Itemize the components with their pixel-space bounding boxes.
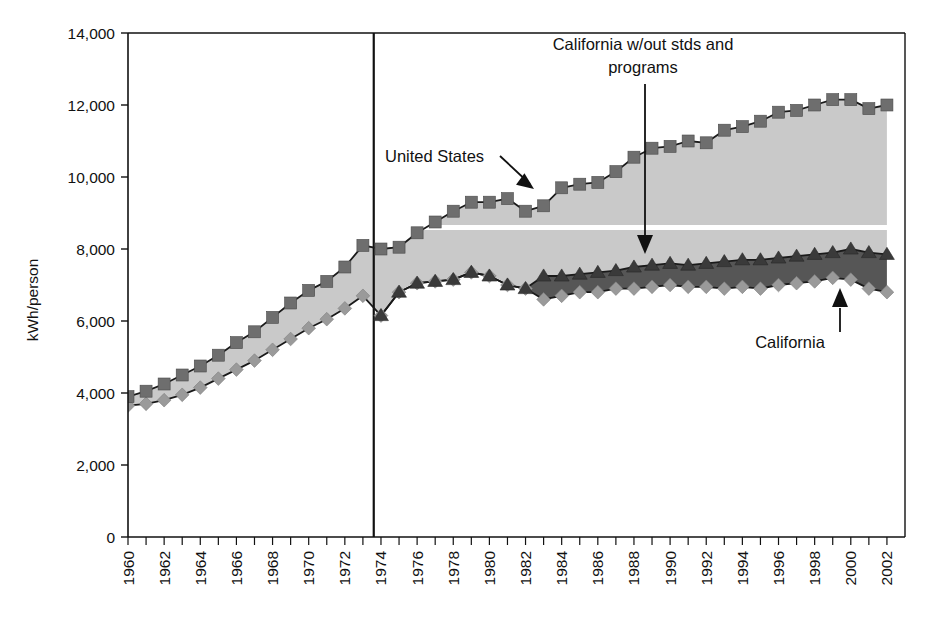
chart-background: [0, 0, 929, 617]
x-axis-tick-label: 1998: [806, 551, 823, 585]
annotation-united-states: United States: [385, 147, 484, 165]
x-axis-tick-label: 1968: [264, 551, 281, 585]
x-axis-tick-label: 1986: [589, 551, 606, 585]
x-axis-tick-label: 1996: [770, 551, 787, 585]
y-axis-tick-label: 10,000: [68, 169, 116, 186]
annotation-california-wout-stds-line1: California w/out stds and: [553, 35, 734, 53]
x-axis-tick-label: 1970: [300, 551, 317, 586]
x-axis-tick-label: 1974: [372, 551, 389, 586]
x-axis-tick-label: 1988: [625, 551, 642, 585]
x-axis-tick-label: 1960: [120, 551, 137, 586]
x-axis-tick-label: 1990: [662, 551, 679, 586]
energy-per-capita-chart: 02,0004,0006,0008,00010,00012,00014,000 …: [0, 0, 929, 617]
y-axis-tick-label: 6,000: [76, 313, 115, 330]
x-axis-tick-label: 1964: [192, 551, 209, 586]
annotation-california: California: [755, 333, 826, 351]
x-axis-tick-label: 2000: [842, 551, 859, 586]
x-axis-tick-label: 1992: [698, 551, 715, 585]
y-axis-tick-label: 4,000: [76, 385, 115, 402]
y-axis-tick-label: 14,000: [68, 25, 116, 42]
x-axis-tick-label: 1994: [734, 551, 751, 586]
x-axis-tick-label: 1976: [409, 551, 426, 585]
x-axis-tick-label: 1982: [517, 551, 534, 585]
y-axis-tick-label: 2,000: [76, 457, 115, 474]
x-axis-tick-label: 1980: [481, 551, 498, 586]
x-axis-tick-label: 1978: [445, 551, 462, 585]
x-axis-tick-label: 1972: [336, 551, 353, 585]
x-axis-tick-label: 2002: [878, 551, 895, 585]
y-axis-label: kWh/person: [24, 259, 41, 342]
y-axis-tick-label: 12,000: [68, 97, 116, 114]
y-axis-tick-label: 0: [106, 529, 115, 546]
chart-figure: 02,0004,0006,0008,00010,00012,00014,000 …: [0, 0, 929, 617]
x-axis-tick-label: 1962: [156, 551, 173, 585]
y-axis-tick-label: 8,000: [76, 241, 115, 258]
x-axis-tick-label: 1984: [553, 551, 570, 586]
annotation-california-wout-stds-line2: programs: [608, 58, 678, 76]
x-axis-tick-label: 1966: [228, 551, 245, 585]
